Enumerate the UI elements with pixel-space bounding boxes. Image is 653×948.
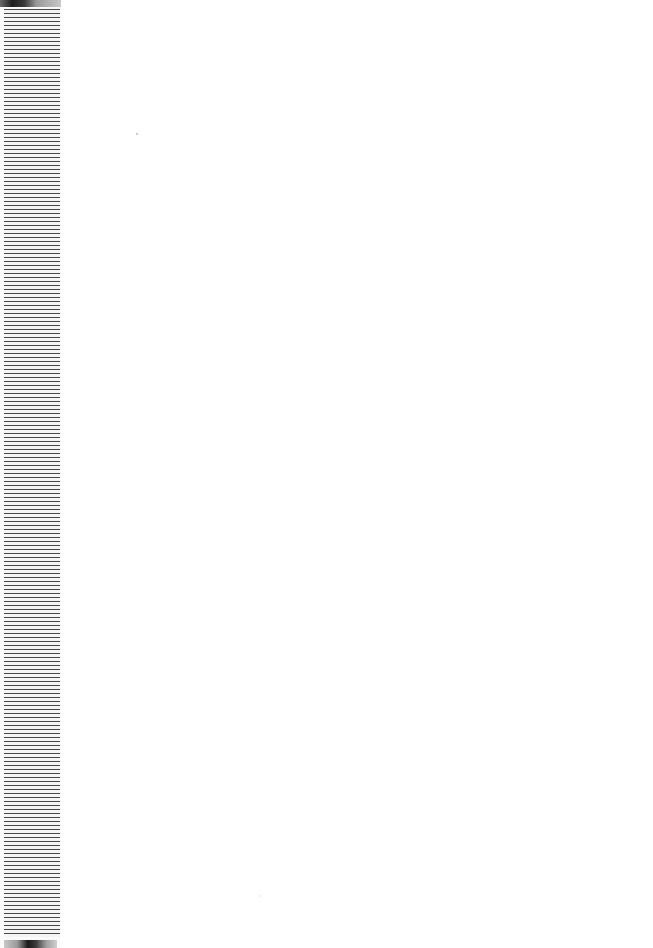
striped-edge-strip <box>0 0 61 948</box>
strip-bottom-shading <box>4 940 57 948</box>
blank-page <box>0 0 653 948</box>
speck-mark <box>136 133 138 135</box>
strip-ruled-lines <box>4 9 60 937</box>
strip-top-shading <box>0 0 61 7</box>
speck-mark <box>259 895 261 897</box>
